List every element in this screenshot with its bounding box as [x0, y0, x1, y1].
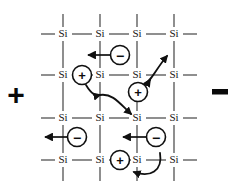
si-atom-label: Si: [132, 111, 141, 123]
si-atom-label: Si: [169, 27, 178, 39]
si-atom-label: Si: [58, 27, 67, 39]
si-atom-label: Si: [132, 68, 141, 80]
positive-terminal: +: [7, 78, 25, 111]
si-atom-label: Si: [58, 153, 67, 165]
si-atom-label: Si: [169, 68, 178, 80]
si-atom-label: Si: [95, 68, 104, 80]
hole-carrier: +: [111, 151, 130, 170]
hole-sign: +: [78, 68, 86, 83]
si-atom-label: Si: [95, 27, 104, 39]
lattice-diagram-canvas: Si Si Si Si Si Si Si Si Si Si Si Si Si S…: [0, 0, 239, 188]
negative-terminal-bar: [212, 89, 228, 95]
electron-carrier: −: [111, 46, 130, 65]
semiconductor-lattice-figure: Si Si Si Si Si Si Si Si Si Si Si Si Si S…: [0, 0, 239, 188]
si-atom-label: Si: [58, 68, 67, 80]
si-atom-label: Si: [95, 153, 104, 165]
si-atom-label: Si: [95, 111, 104, 123]
si-atom-label: Si: [58, 111, 67, 123]
electron-carrier: −: [147, 128, 166, 147]
hole-sign: +: [134, 85, 142, 100]
si-atom-label: Si: [169, 111, 178, 123]
si-atom-label: Si: [169, 153, 178, 165]
si-atom-label: Si: [132, 27, 141, 39]
hole-carrier: +: [129, 83, 148, 102]
electron-sign: −: [73, 130, 81, 146]
negative-terminal: [212, 89, 228, 95]
electron-sign: −: [152, 130, 160, 146]
electron-sign: −: [116, 48, 124, 64]
si-atom-label: Si: [132, 153, 141, 165]
hole-carrier: +: [73, 66, 92, 85]
hole-sign: +: [116, 153, 124, 168]
electron-carrier: −: [68, 128, 87, 147]
